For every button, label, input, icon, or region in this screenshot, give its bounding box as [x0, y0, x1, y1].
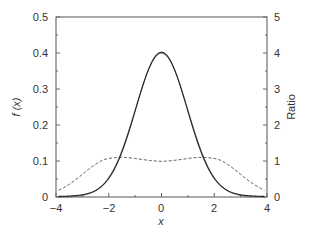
- x-tick: 4: [264, 202, 270, 214]
- density-curve-2: [59, 52, 265, 196]
- y2-tick: 1: [274, 155, 280, 167]
- y2-tick: 4: [274, 47, 280, 59]
- y-tick: 0.1: [33, 155, 48, 167]
- y2-tick: 2: [274, 119, 280, 131]
- y2-tick: 3: [274, 83, 280, 95]
- x-tick: 0: [158, 202, 164, 214]
- y2-tick: 0: [274, 191, 280, 203]
- y2-axis-label: Ratio: [285, 94, 297, 120]
- y-tick: 0.2: [33, 119, 48, 131]
- y2-tick: 5: [274, 11, 280, 23]
- x-tick: −4: [50, 202, 63, 214]
- y-axis-label: f (x): [10, 97, 22, 116]
- x-tick: 2: [211, 202, 217, 214]
- ratio-curve: [59, 157, 265, 190]
- chart: 0 0.1 0.2 0.3 0.4 0.5 0 1 2 3 4 5 −4 −2 …: [0, 0, 309, 233]
- y-tick: 0.4: [33, 47, 48, 59]
- curves: [59, 52, 265, 197]
- density-curve-1: [59, 53, 265, 197]
- y-tick: 0: [42, 191, 48, 203]
- x-tick: −2: [103, 202, 116, 214]
- x-axis-label: x: [157, 215, 164, 227]
- y-tick: 0.3: [33, 83, 48, 95]
- y-tick: 0.5: [33, 11, 48, 23]
